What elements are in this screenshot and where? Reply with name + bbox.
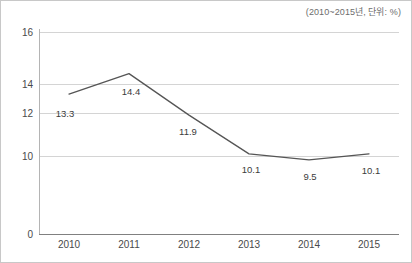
data-point-label: 10.1 xyxy=(242,164,261,175)
y-axis-tick-labels: 161412100 xyxy=(1,29,33,235)
y-axis-tick-label: 14 xyxy=(7,79,33,90)
x-axis-tick-label: 2013 xyxy=(238,239,260,250)
chart-unit-note: (2010~2015년, 단위: %) xyxy=(306,5,401,18)
y-axis-tick-label: 12 xyxy=(7,108,33,119)
x-axis-tick-label: 2014 xyxy=(298,239,320,250)
x-axis-tick-label: 2011 xyxy=(118,239,140,250)
data-point-label: 13.3 xyxy=(56,108,75,119)
data-point-label: 14.4 xyxy=(122,86,141,97)
data-point-label: 10.1 xyxy=(362,165,381,176)
x-axis-tick-label: 2015 xyxy=(358,239,380,250)
y-axis-tick-label: 10 xyxy=(7,151,33,162)
data-point-label: 11.9 xyxy=(179,126,197,137)
y-axis-tick-label: 0 xyxy=(7,229,33,240)
series-line xyxy=(39,29,399,235)
x-axis-tick-label: 2012 xyxy=(178,239,200,250)
y-axis-tick-label: 16 xyxy=(7,27,33,38)
x-axis-tick-label: 2010 xyxy=(58,239,80,250)
x-axis-tick-labels: 201020112012201320142015 xyxy=(39,239,399,259)
line-chart-figure: (2010~2015년, 단위: %) 161412100 13.314.411… xyxy=(0,0,412,263)
data-point-label: 9.5 xyxy=(303,171,316,182)
plot-area: 13.314.411.910.19.510.1 xyxy=(39,29,399,235)
